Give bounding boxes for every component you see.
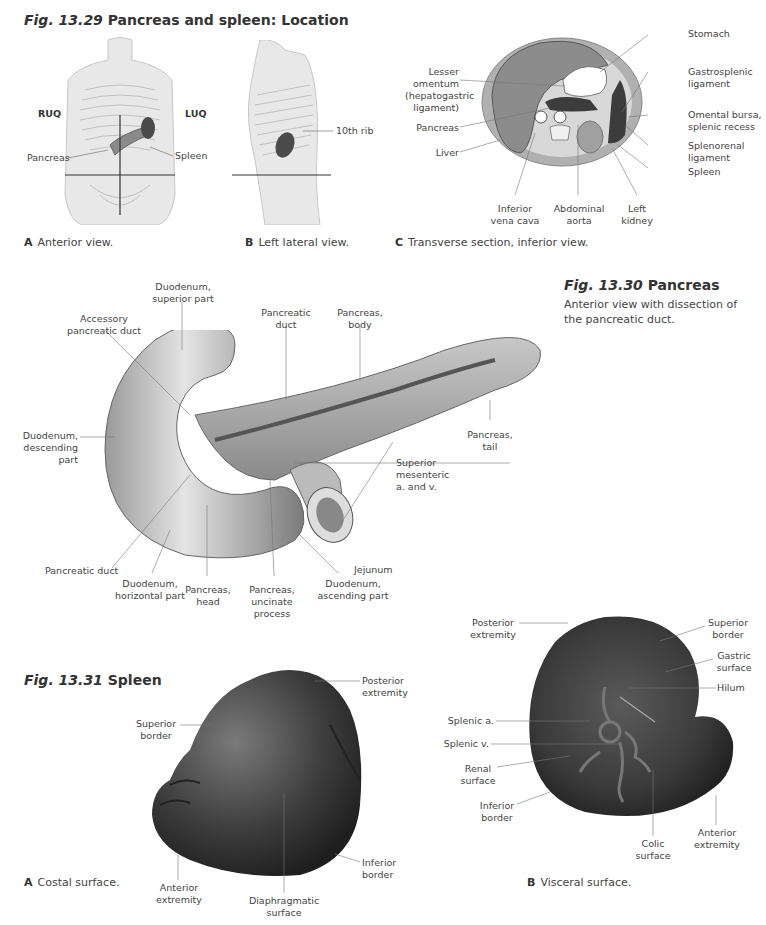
label-pancreas-head: Pancreas, head [183, 584, 233, 608]
label-spleen-a-inferior: Inferior border [362, 857, 396, 881]
panel-letter-a: A [24, 236, 33, 249]
panel-letter-a: A [24, 876, 33, 889]
fig-13-29-title-text: Pancreas and spleen: Location [108, 12, 349, 28]
label-splenic-a: Splenic a. [440, 715, 494, 727]
fig-13-30-title: Fig. 13.30 Pancreas [564, 277, 720, 293]
anterior-torso-illustration [60, 35, 180, 225]
fig-13-30-title-text: Pancreas [648, 277, 720, 293]
caption-13-29-a: AAnterior view. [24, 236, 113, 249]
fig-13-29-title: Fig. 13.29 Pancreas and spleen: Location [24, 12, 349, 28]
label-spleen-a-posterior: Posterior extremity [362, 675, 408, 699]
label-spleen-a-diaphragmatic: Diaphragmatic surface [248, 895, 320, 919]
label-spleen-b-gastric: Gastric surface [714, 650, 754, 674]
label-spleen-c: Spleen [688, 166, 720, 178]
label-duod-superior: Duodenum, superior part [145, 281, 221, 305]
label-pancreatic-duct-bottom: Pancreatic duct [45, 565, 118, 577]
transverse-section-illustration [480, 35, 645, 170]
label-jejunum: Jejunum [354, 564, 393, 576]
label-luq: LUQ [185, 108, 207, 120]
fig-13-31-title: Fig. 13.31 Spleen [24, 672, 162, 688]
caption-text: Costal surface. [38, 876, 120, 889]
spleen-visceral-illustration [525, 612, 735, 822]
label-stomach: Stomach [688, 28, 730, 40]
label-10th-rib: 10th rib [336, 125, 373, 137]
label-sup-mesenteric: Superior mesenteric a. and v. [396, 457, 449, 493]
panel-letter-b: B [245, 236, 253, 249]
caption-text: Transverse section, inferior view. [408, 236, 588, 249]
label-liver: Liver [405, 147, 459, 159]
label-colic-surface: Colic surface [633, 838, 673, 862]
caption-13-31-b: BVisceral surface. [527, 876, 631, 889]
caption-text: Visceral surface. [540, 876, 631, 889]
caption-13-31-a: ACostal surface. [24, 876, 119, 889]
label-ruq: RUQ [38, 108, 61, 120]
caption-text: Left lateral view. [258, 236, 349, 249]
label-splenic-v: Splenic v. [435, 738, 489, 750]
label-left-kidney: Left kidney [615, 203, 659, 227]
label-pancreas-tail: Pancreas, tail [460, 429, 520, 453]
caption-text: Anterior view. [38, 236, 114, 249]
label-pancreatic-duct-top: Pancreatic duct [256, 307, 316, 331]
label-aorta: Abdominal aorta [550, 203, 608, 227]
label-duod-ascending: Duodenum, ascending part [313, 578, 393, 602]
label-lesser-omentum: Lesser omentum (hepatogastric ligament) [405, 66, 459, 114]
label-accessory-duct: Accessory pancreatic duct [58, 313, 150, 337]
caption-13-29-b: BLeft lateral view. [245, 236, 349, 249]
panel-letter-c: C [395, 236, 403, 249]
fig-13-30-subtitle: Anterior view with dissection of the pan… [564, 297, 744, 327]
fig-13-31-number: Fig. 13.31 [24, 672, 103, 688]
label-gastrosplenic: Gastrosplenic ligament [688, 66, 753, 90]
label-spleen-a: Spleen [175, 150, 207, 162]
label-pancreas-a: Pancreas [27, 152, 70, 164]
label-duod-descending: Duodenum, descending part [18, 430, 78, 466]
label-pancreas-body: Pancreas, body [330, 307, 390, 331]
caption-13-29-c: CTransverse section, inferior view. [395, 236, 588, 249]
label-spleen-a-superior: Superior border [133, 718, 179, 742]
lateral-torso-illustration [245, 40, 335, 225]
label-omental-bursa: Omental bursa, splenic recess [688, 109, 762, 133]
fig-13-29-number: Fig. 13.29 [24, 12, 103, 28]
panel-letter-b: B [527, 876, 535, 889]
fig-13-30-number: Fig. 13.30 [564, 277, 643, 293]
label-spleen-b-superior: Superior border [706, 617, 750, 641]
label-ivc: Inferior vena cava [488, 203, 542, 227]
label-spleen-b-inferior: Inferior border [477, 800, 517, 824]
spleen-costal-illustration [150, 665, 365, 880]
label-spleen-a-anterior: Anterior extremity [152, 882, 206, 906]
label-spleen-b-posterior: Posterior extremity [468, 617, 518, 641]
label-renal-surface: Renal surface [458, 763, 498, 787]
label-pancreas-c: Pancreas [405, 122, 459, 134]
label-duod-horizontal: Duodenum, horizontal part [110, 578, 190, 602]
label-splenorenal: Splenorenal ligament [688, 140, 744, 164]
label-spleen-b-anterior: Anterior extremity [692, 827, 742, 851]
label-uncinate: Pancreas, uncinate process [232, 584, 312, 620]
label-spleen-b-hilum: Hilum [717, 682, 745, 694]
